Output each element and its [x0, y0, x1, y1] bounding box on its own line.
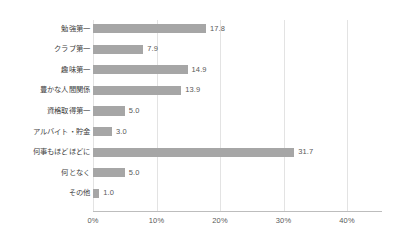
bar [93, 106, 125, 115]
x-tick-label-20: 20% [212, 216, 227, 225]
category-label: その他 [69, 188, 90, 197]
bar [93, 148, 294, 157]
x-tick-label-0: 0% [87, 216, 98, 225]
bar-row: 資格取得第一 5.0 [0, 102, 399, 123]
bar [93, 24, 206, 33]
category-label: 何となく [61, 168, 90, 177]
bar-row: 何事もほどほどに 31.7 [0, 144, 399, 165]
bar-row: 豊かな人間関係 13.9 [0, 82, 399, 103]
category-label: クラブ第一 [54, 44, 90, 53]
value-label: 5.0 [129, 106, 140, 115]
bar-row: アルバイト・貯金 3.0 [0, 123, 399, 144]
bar [93, 189, 99, 198]
value-label: 17.8 [210, 24, 225, 33]
category-label: 資格取得第一 [47, 106, 90, 115]
bar-row: 趣味第一 14.9 [0, 61, 399, 82]
category-label: 何事もほどほどに [33, 147, 90, 156]
category-label: 豊かな人間関係 [40, 85, 90, 94]
bar-rows-group: 勉強第一 17.8 クラブ第一 7.9 趣味第一 14.9 豊かな人間関係 13… [0, 20, 399, 205]
bar-row: 勉強第一 17.8 [0, 20, 399, 41]
bar [93, 45, 143, 54]
bar-row: クラブ第一 7.9 [0, 41, 399, 62]
x-tick-label-30: 30% [276, 216, 291, 225]
category-label: 勉強第一 [61, 24, 90, 33]
bar [93, 86, 181, 95]
bar-row: 何となく 5.0 [0, 164, 399, 185]
value-label: 14.9 [192, 65, 207, 74]
x-axis-line [93, 211, 382, 212]
value-label: 5.0 [129, 168, 140, 177]
bar-row: その他 1.0 [0, 185, 399, 206]
x-tick-label-10: 10% [149, 216, 164, 225]
value-label: 1.0 [103, 188, 114, 197]
value-label: 13.9 [185, 85, 200, 94]
value-label: 3.0 [116, 127, 127, 136]
category-label: 趣味第一 [61, 65, 90, 74]
bar [93, 168, 125, 177]
bar [93, 127, 112, 136]
category-label: アルバイト・貯金 [33, 127, 90, 136]
bar [93, 65, 188, 74]
bar-chart: 勉強第一 17.8 クラブ第一 7.9 趣味第一 14.9 豊かな人間関係 13… [0, 0, 399, 244]
x-tick-label-40: 40% [339, 216, 354, 225]
value-label: 31.7 [298, 147, 313, 156]
value-label: 7.9 [147, 44, 158, 53]
